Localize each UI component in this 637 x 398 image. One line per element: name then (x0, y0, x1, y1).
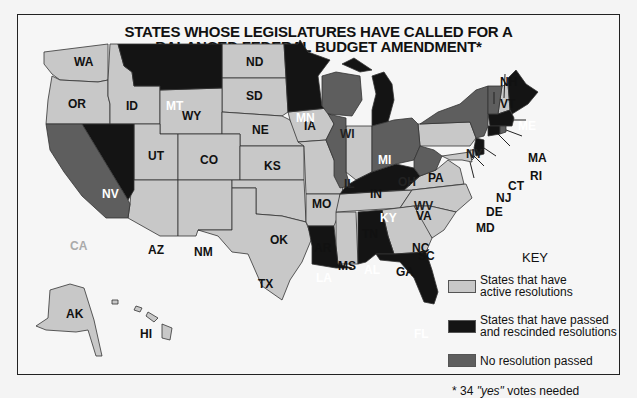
label-sc: SC (418, 249, 435, 263)
label-nj: NJ (496, 191, 511, 205)
label-sd: SD (246, 89, 263, 103)
label-nm: NM (194, 245, 213, 259)
state-ri[interactable] (500, 126, 506, 134)
label-fl: FL (414, 327, 429, 341)
label-ne: NE (252, 123, 269, 137)
label-nv: NV (102, 187, 119, 201)
label-oh: OH (398, 175, 416, 189)
label-il: IL (344, 177, 355, 191)
footnote-suffix: votes needed (504, 384, 579, 398)
label-ky: KY (380, 211, 397, 225)
label-az: AZ (148, 243, 164, 257)
legend-title: KEY (522, 250, 548, 265)
label-hi: HI (140, 327, 152, 341)
label-vt: VT (500, 97, 516, 111)
label-la: LA (316, 271, 332, 285)
state-ms[interactable] (336, 212, 358, 264)
label-ca: CA (70, 239, 88, 253)
label-ak: AK (66, 307, 84, 321)
label-wy: WY (182, 109, 201, 123)
label-ga: GA (396, 265, 414, 279)
state-pa[interactable] (418, 122, 476, 146)
legend-label: No resolution passed (480, 355, 593, 367)
state-wi[interactable] (322, 72, 362, 116)
label-mo: MO (312, 197, 331, 211)
state-az[interactable] (128, 180, 178, 236)
footnote-prefix: * 34 (452, 384, 477, 398)
label-ar: AR (314, 241, 332, 255)
label-ny: NY (466, 147, 483, 161)
label-wv: WV (414, 199, 433, 213)
swatch-rescinded (448, 320, 476, 333)
label-me: ME (518, 119, 536, 133)
label-mn: MN (296, 111, 315, 125)
label-co: CO (200, 153, 218, 167)
label-id: ID (126, 99, 138, 113)
label-md: MD (476, 221, 495, 235)
swatch-active (448, 280, 476, 293)
label-nh: NH (500, 75, 517, 89)
label-ks: KS (264, 159, 281, 173)
label-mi: MI (378, 153, 391, 167)
label-ut: UT (148, 149, 165, 163)
label-ri: RI (530, 169, 542, 183)
swatch-none (448, 354, 476, 367)
label-tx: TX (258, 277, 273, 291)
label-de: DE (486, 205, 503, 219)
label-or: OR (68, 97, 86, 111)
label-wa: WA (74, 55, 94, 69)
label-nd: ND (246, 55, 264, 69)
label-tn: TN (362, 227, 378, 241)
legend-label: and rescinded resolutions (480, 326, 617, 338)
footnote-italic: "yes" (477, 384, 504, 398)
legend-item-rescinded: States that have passed and rescinded re… (448, 314, 617, 338)
label-ms: MS (338, 259, 356, 273)
label-in: IN (370, 187, 382, 201)
label-mt: MT (166, 99, 184, 113)
label-ok: OK (270, 233, 288, 247)
state-nm[interactable] (178, 180, 232, 236)
legend-label: active resolutions (480, 286, 573, 298)
label-pa: PA (428, 171, 444, 185)
legend-item-none: No resolution passed (448, 354, 593, 367)
label-ma: MA (528, 151, 547, 165)
legend-item-active: States that have active resolutions (448, 274, 573, 298)
label-al: AL (364, 263, 380, 277)
label-wi: WI (340, 127, 355, 141)
footnote: * 34 "yes" votes needed (452, 384, 579, 398)
state-mt[interactable] (118, 44, 222, 90)
